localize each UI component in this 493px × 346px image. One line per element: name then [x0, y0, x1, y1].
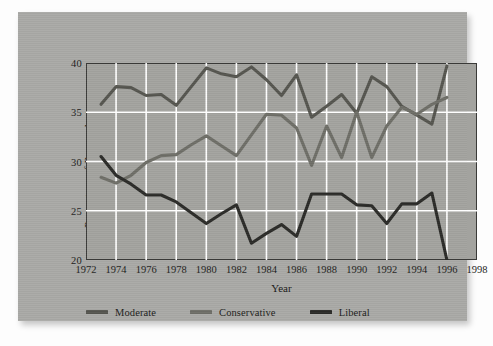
legend-color-swatch: [310, 310, 332, 314]
x-axis-tick-label: 1978: [166, 264, 187, 275]
x-axis-tick-label: 1972: [76, 264, 97, 275]
chart-page: 2025303540 Percentage of Respondents 197…: [0, 0, 493, 346]
plot-area: [86, 63, 477, 260]
legend-item-label: Conservative: [219, 307, 276, 318]
x-axis-tick-label: 1998: [467, 264, 488, 275]
x-axis-tick-labels: 1972197419761978198019821984198619881990…: [86, 264, 477, 280]
x-axis-tick-label: 1990: [346, 264, 367, 275]
legend-item-label: Moderate: [115, 307, 156, 318]
legend-item-moderate[interactable]: Moderate: [86, 307, 156, 318]
legend-color-swatch: [190, 310, 212, 314]
x-axis-tick-label: 1976: [136, 264, 157, 275]
series-line-liberal: [101, 157, 447, 260]
x-axis-tick-label: 1984: [256, 264, 277, 275]
legend-color-swatch: [86, 310, 108, 314]
y-axis-tick-label: 40: [71, 58, 82, 69]
x-axis-tick-label: 1974: [106, 264, 127, 275]
y-axis-tick-label: 35: [71, 107, 82, 118]
x-axis-tick-label: 1982: [226, 264, 247, 275]
x-axis-tick-label: 1986: [286, 264, 307, 275]
y-axis-tick-label: 25: [71, 205, 82, 216]
chart-card: 2025303540 Percentage of Respondents 197…: [18, 12, 467, 321]
chart-legend: ModerateConservativeLiberal: [86, 304, 477, 320]
series-line-conservative: [101, 97, 447, 183]
legend-item-label: Liberal: [339, 307, 370, 318]
x-axis-tick-label: 1996: [436, 264, 457, 275]
legend-item-conservative[interactable]: Conservative: [190, 307, 276, 318]
y-axis-tick-labels: 2025303540: [58, 63, 82, 260]
x-axis-tick-label: 1994: [406, 264, 427, 275]
data-series-lines: [86, 63, 477, 260]
legend-item-liberal[interactable]: Liberal: [310, 307, 370, 318]
y-axis-tick-label: 30: [71, 156, 82, 167]
x-axis-title: Year: [86, 282, 477, 294]
x-axis-tick-label: 1988: [316, 264, 337, 275]
x-axis-tick-label: 1980: [196, 264, 217, 275]
x-axis-tick-label: 1992: [376, 264, 397, 275]
